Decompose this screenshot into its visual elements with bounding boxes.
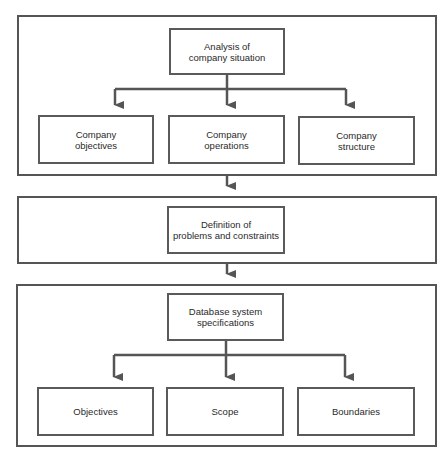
company-objectives-box: Company objectives <box>38 115 154 164</box>
company-objectives-label: Company objectives <box>75 129 117 151</box>
boundaries-box: Boundaries <box>297 387 415 436</box>
company-operations-box: Company operations <box>168 115 285 164</box>
definition-of-problems-label: Definition of problems and constraints <box>173 219 279 241</box>
company-operations-label: Company operations <box>204 129 248 151</box>
analysis-of-company-situation-box: Analysis of company situation <box>169 28 285 75</box>
scope-box: Scope <box>166 387 284 436</box>
objectives-box: Objectives <box>37 387 154 436</box>
database-system-specifications-box: Database system specifications <box>167 293 284 341</box>
database-system-specifications-label: Database system specifications <box>189 306 262 328</box>
boundaries-label: Boundaries <box>332 406 380 417</box>
analysis-of-company-situation-label: Analysis of company situation <box>189 41 266 63</box>
company-structure-box: Company structure <box>298 116 415 165</box>
definition-of-problems-box: Definition of problems and constraints <box>167 206 285 254</box>
objectives-label: Objectives <box>73 406 117 417</box>
company-structure-label: Company structure <box>336 130 377 152</box>
scope-label: Scope <box>212 406 239 417</box>
